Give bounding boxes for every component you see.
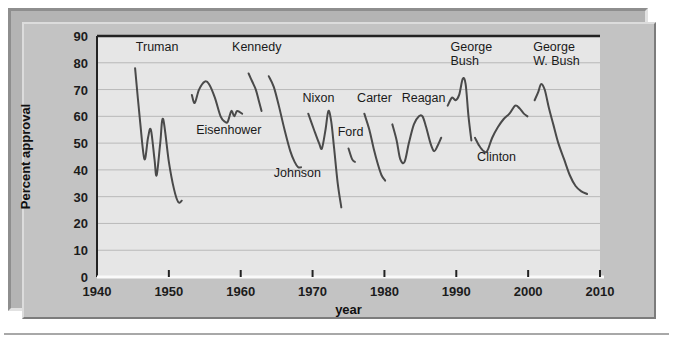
series-label-clinton: Clinton: [477, 150, 516, 164]
x-tick-label-1940: 1940: [83, 284, 112, 299]
y-tick-label-0: 0: [81, 270, 88, 285]
x-tick-label-1950: 1950: [154, 284, 183, 299]
x-tick-label-1980: 1980: [370, 284, 399, 299]
x-tick-label-2010: 2010: [586, 284, 615, 299]
y-tick-label-30: 30: [74, 190, 88, 205]
series-label-carter: Carter: [357, 91, 392, 105]
series-label-george-w-bush: GeorgeW. Bush: [533, 40, 580, 68]
series-label-ford: Ford: [338, 125, 364, 139]
series-label-eisenhower: Eisenhower: [196, 123, 261, 137]
x-axis-title: year: [335, 302, 362, 317]
y-tick-label-70: 70: [74, 83, 88, 98]
presidential-approval-chart: 0102030405060708090 19401950196019701980…: [0, 0, 673, 341]
y-tick-label-20: 20: [74, 216, 88, 231]
series-label-truman: Truman: [136, 40, 179, 54]
series-label-kennedy: Kennedy: [232, 40, 282, 54]
y-tick-label-10: 10: [74, 243, 88, 258]
x-tick-label-1960: 1960: [226, 284, 255, 299]
x-tick-label-1990: 1990: [442, 284, 471, 299]
y-tick-label-40: 40: [74, 163, 88, 178]
y-tick-label-50: 50: [74, 136, 88, 151]
x-tick-label-1970: 1970: [298, 284, 327, 299]
x-axis-tick-labels: 19401950196019701980199020002010: [83, 284, 615, 299]
y-axis-title: Percent approval: [18, 104, 33, 210]
y-tick-label-60: 60: [74, 109, 88, 124]
x-tick-label-2000: 2000: [514, 284, 543, 299]
y-axis-tick-labels: 0102030405060708090: [74, 29, 88, 285]
plot-area-background: [97, 36, 600, 277]
series-label-reagan: Reagan: [402, 91, 446, 105]
series-label-johnson: Johnson: [274, 166, 321, 180]
y-tick-label-90: 90: [74, 29, 88, 44]
plot-background-group: [97, 36, 600, 277]
y-tick-label-80: 80: [74, 56, 88, 71]
series-label-nixon: Nixon: [303, 91, 335, 105]
